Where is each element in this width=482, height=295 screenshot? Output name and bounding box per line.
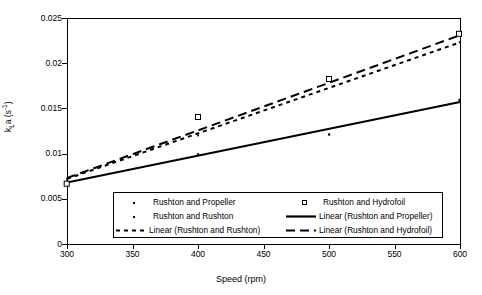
legend-marker-solid-line xyxy=(286,212,316,221)
point-rushton-400 xyxy=(197,135,199,137)
legend-label-2: Linear (Rushton and Rushton) xyxy=(149,226,260,235)
legend-entry-rushton-rushton: Rushton and Rushton xyxy=(120,212,233,221)
legend-label-0: Rushton and Propeller xyxy=(153,198,236,207)
legend-label-1: Rushton and Rushton xyxy=(153,212,233,221)
trend-rushton-rushton xyxy=(67,42,460,179)
chart-figure: 0 0.005 0.01 0.015 0.02 0.025 300 350 40… xyxy=(0,0,482,295)
legend-entry-linear-rushton-hydrofoil: Linear (Rushton and Hydrofoil) xyxy=(286,226,432,235)
legend-entry-rushton-hydrofoil: Rushton and Hydrofoil xyxy=(290,198,405,207)
legend-label-4: Linear (Rushton and Propeller) xyxy=(319,212,432,221)
point-propeller-500 xyxy=(328,133,330,135)
trend-rushton-propeller xyxy=(67,102,460,182)
series-layer xyxy=(0,0,482,295)
point-propeller-600 xyxy=(459,99,461,101)
legend-marker-open-square xyxy=(290,198,320,207)
point-propeller-400 xyxy=(197,153,199,155)
point-rushton-600 xyxy=(459,41,461,43)
legend-marker-small-dot xyxy=(120,198,150,207)
legend: Rushton and Propeller Rushton and Rushto… xyxy=(113,192,443,238)
legend-marker-tiny-dot xyxy=(120,212,150,221)
point-hydrofoil-600 xyxy=(457,31,462,36)
point-rushton-300 xyxy=(66,178,68,180)
point-hydrofoil-400 xyxy=(196,115,201,120)
legend-marker-dotted-line xyxy=(116,226,146,235)
legend-label-5: Linear (Rushton and Hydrofoil) xyxy=(319,226,432,235)
point-hydrofoil-300 xyxy=(64,181,69,186)
legend-marker-dashed-line xyxy=(286,226,316,235)
legend-entry-rushton-propeller: Rushton and Propeller xyxy=(120,198,236,207)
legend-entry-linear-rushton-propeller: Linear (Rushton and Propeller) xyxy=(286,212,432,221)
legend-label-3: Rushton and Hydrofoil xyxy=(323,198,405,207)
point-hydrofoil-500 xyxy=(327,77,332,82)
trend-rushton-hydrofoil xyxy=(67,35,460,178)
legend-entry-linear-rushton-rushton: Linear (Rushton and Rushton) xyxy=(116,226,260,235)
